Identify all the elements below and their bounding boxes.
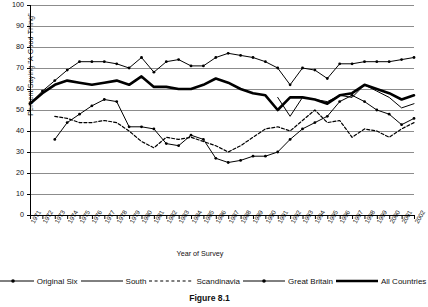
- legend-swatch-solid-thin-marker: [242, 276, 286, 286]
- grid-lines: [30, 6, 414, 216]
- legend-swatch-solid-thin: [80, 276, 124, 286]
- legend-swatch-solid-thin-marker: [0, 276, 35, 286]
- axis-lines: [27, 5, 415, 219]
- legend-item-great-britain[interactable]: Great Britain: [242, 276, 335, 286]
- legend-item-all-countries[interactable]: All Countries: [335, 276, 428, 286]
- legend-label: Original Six: [35, 277, 80, 286]
- series-original-six: [29, 52, 416, 105]
- legend-label: South: [124, 277, 149, 286]
- legend-swatch-dashed: [148, 276, 194, 286]
- legend-label: Scandinavia: [194, 277, 242, 286]
- legend-item-south[interactable]: South: [80, 276, 149, 286]
- legend-label: All Countries: [379, 277, 428, 286]
- figure-caption: Figure 8.1: [0, 293, 419, 306]
- legend-label: Great Britain: [286, 277, 335, 286]
- legend-item-original-six[interactable]: Original Six: [0, 276, 80, 286]
- series-great-britain: [53, 94, 415, 164]
- legend-item-scandinavia[interactable]: Scandinavia: [148, 276, 242, 286]
- legend-swatch-solid-thick: [335, 276, 379, 286]
- chart-legend: Original SixSouthScandinaviaGreat Britai…: [0, 272, 419, 290]
